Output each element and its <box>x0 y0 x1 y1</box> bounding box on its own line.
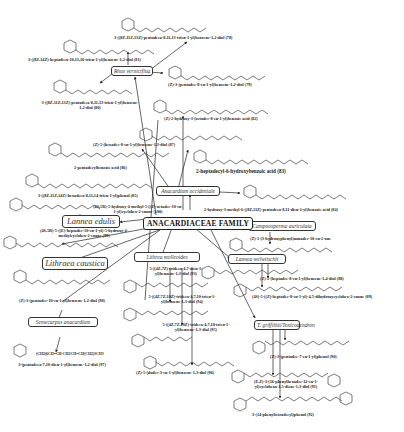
compound-label-80: 3-((8Z,11Z,13Z)-pentadeca-8,11,13-trien-… <box>40 100 140 110</box>
anacardiaceae-diagram: Rhus verniciflua Anacardium occidentale … <box>0 0 404 432</box>
semecarpus-formula: (CH2)6CH=CH-CH2CH=CH(CH2)3CH3 <box>36 352 104 357</box>
compound-label-78: 3-((8Z,11Z,13Z)-pentadeca-8,11,13-trien-… <box>114 35 232 40</box>
species-campnosperma-auriculata: Campnosperma auriculata <box>248 221 316 231</box>
compound-label-83: 2-heptadecyl-6-hydroxybenzoic acid (83) <box>196 169 286 174</box>
structure-and-arrow-layer <box>0 0 404 432</box>
compound-label-79: (Z)-3-(pentadec-8-en-1-yl)benzene-1,2-di… <box>168 82 252 87</box>
compound-label-84: 2-hydroxy-3-methyl-6-((8Z,11Z)-pentadeca… <box>204 207 338 212</box>
species-lithrea-molleoides: Lithrea molleoides <box>134 252 200 262</box>
compound-label-91: (E,Z)-3-(16-phenylhexadec-12-en-1-yl)cyc… <box>246 379 326 389</box>
compound-label-99: (4S,5R)-5-((E)-heptadec-10-en-1-yl)-5-hy… <box>30 228 138 238</box>
compound-label-86: 2-pentadecylbenzoic acid (86) <box>74 165 127 170</box>
species-anacardium-occidentale: Anacardium occidentale <box>156 186 220 196</box>
compound-label-96: (Z)-5-(dodec-3-en-1-yl)benzene-1,3-diol … <box>136 370 214 375</box>
compound-label-81: 3-((8Z,14Z)-heptadeca-10,13,16-trien-1-y… <box>28 57 141 62</box>
family-node: ANACARDIACEAE FAMILY <box>143 217 253 230</box>
species-lannea-welwitschii: Lannea welwitschii <box>228 254 286 264</box>
compound-label-101: (Z)-1-(3-hydroxyphenyl)nonadec-10-en-2-o… <box>250 236 331 241</box>
species-lannea-edulis: Lannea edulis <box>62 215 120 228</box>
species-lithraea-caustica: Lithraea caustica <box>42 257 108 270</box>
compound-label-88: (Z)-2-(heptadec-8-en-1-yl)benzene-1,4-di… <box>260 276 344 281</box>
compound-label-85: 3-((8Z,11Z,14Z)-hexadeca-8,11,14-trien-1… <box>38 193 138 198</box>
compound-label-95: 5-((4Z,7Z,10Z)-trideca-4,7,10-trien-1-yl… <box>160 322 232 332</box>
compound-label-93: 5-((4Z,7Z)-trideca-4,7-dien-1-yl)benzene… <box>140 266 212 276</box>
compound-label-90: (Z)-3-(pentadec-7-en-1-yl)phenol (90) <box>270 354 337 359</box>
compound-label-89: (4S)-5-((Z)-heptadec-8-en-1-yl)-4,5-dihy… <box>252 294 372 299</box>
compound-label-92: 3-(14-phenyltetradecyl)phenol (92) <box>252 412 314 417</box>
species-toxicodendron: T. griffithii/Toxicodendron <box>254 320 300 330</box>
compound-label-100: (4S,5R)-5-hydroxy-4-methyl-5-((Z)-octade… <box>92 204 184 214</box>
compound-label-97: 3-(pentadeca-7,10-dien-1-yl)benzene-1,2-… <box>14 362 110 367</box>
compound-label-98: (Z)-3-(pentadec-10-en-1-yl)benzene-1,2-d… <box>14 298 110 303</box>
compound-label-87: (Z)-5-(hexadec-8-en-1-yl)benzene-1,3-dio… <box>93 142 175 147</box>
compound-label-94: 5-((4Z,7Z,10Z)-trideca-4,7,10-trien-1-yl… <box>140 294 224 304</box>
species-semecarpus-anacardium: Semecarpus anacardium <box>28 317 98 327</box>
species-rhus-verniciflua: Rhus verniciflua <box>111 66 153 76</box>
compound-label-82: (Z)-2-hydroxy-3-(octadec-8-en-1-yl)benzo… <box>164 116 258 121</box>
